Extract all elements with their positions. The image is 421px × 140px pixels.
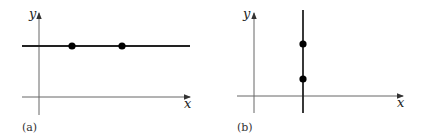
panel-a-point-2 bbox=[118, 42, 125, 49]
panel-b-y-label: y bbox=[242, 6, 251, 21]
panel-a-x-label: x bbox=[184, 96, 192, 111]
diagram-canvas: y x (a) y x (b) bbox=[0, 0, 421, 140]
panel-b: y x (b) bbox=[237, 6, 405, 134]
panel-b-caption: (b) bbox=[237, 121, 253, 134]
panel-b-x-label: x bbox=[397, 95, 405, 110]
panel-a-caption: (a) bbox=[22, 121, 37, 134]
panel-a: y x (a) bbox=[22, 6, 192, 134]
panel-a-y-label: y bbox=[28, 6, 37, 21]
panel-a-point-1 bbox=[68, 42, 75, 49]
panel-b-point-2 bbox=[299, 75, 306, 82]
panel-b-point-1 bbox=[299, 40, 306, 47]
